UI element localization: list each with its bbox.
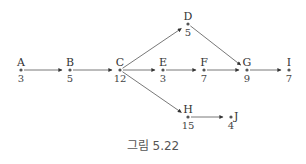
node-dot	[229, 115, 232, 118]
node-label: B	[66, 56, 74, 69]
node-d: D5	[184, 10, 193, 38]
node-duration: 9	[244, 73, 250, 84]
edge-c-d	[122, 28, 181, 68]
node-label: G	[243, 56, 252, 69]
node-duration: 15	[182, 120, 195, 131]
edges	[24, 26, 281, 117]
node-label: F	[200, 56, 208, 69]
node-label: C	[116, 56, 124, 69]
nodes: A3B5C12D5E3F7G9I7H15J4	[16, 10, 292, 131]
node-e: E3	[159, 56, 167, 84]
node-f: F7	[200, 56, 208, 84]
node-b: B5	[66, 56, 74, 84]
edge-c-h	[122, 72, 181, 113]
node-duration: 5	[67, 73, 73, 84]
node-label: D	[184, 10, 193, 23]
node-j: J4	[228, 110, 239, 131]
node-label: E	[159, 56, 167, 69]
node-duration: 3	[18, 73, 24, 84]
node-duration: 4	[228, 120, 234, 131]
node-duration: 7	[201, 73, 207, 84]
node-duration: 3	[160, 73, 166, 84]
node-i: I7	[286, 56, 292, 84]
node-duration: 5	[185, 27, 191, 38]
node-label: H	[183, 103, 193, 116]
node-duration: 7	[286, 73, 292, 84]
node-duration: 12	[114, 73, 127, 84]
figure-caption: 그림 5.22	[0, 136, 306, 153]
node-label: I	[287, 56, 291, 69]
edge-d-g	[190, 26, 240, 65]
node-label: A	[16, 56, 26, 69]
